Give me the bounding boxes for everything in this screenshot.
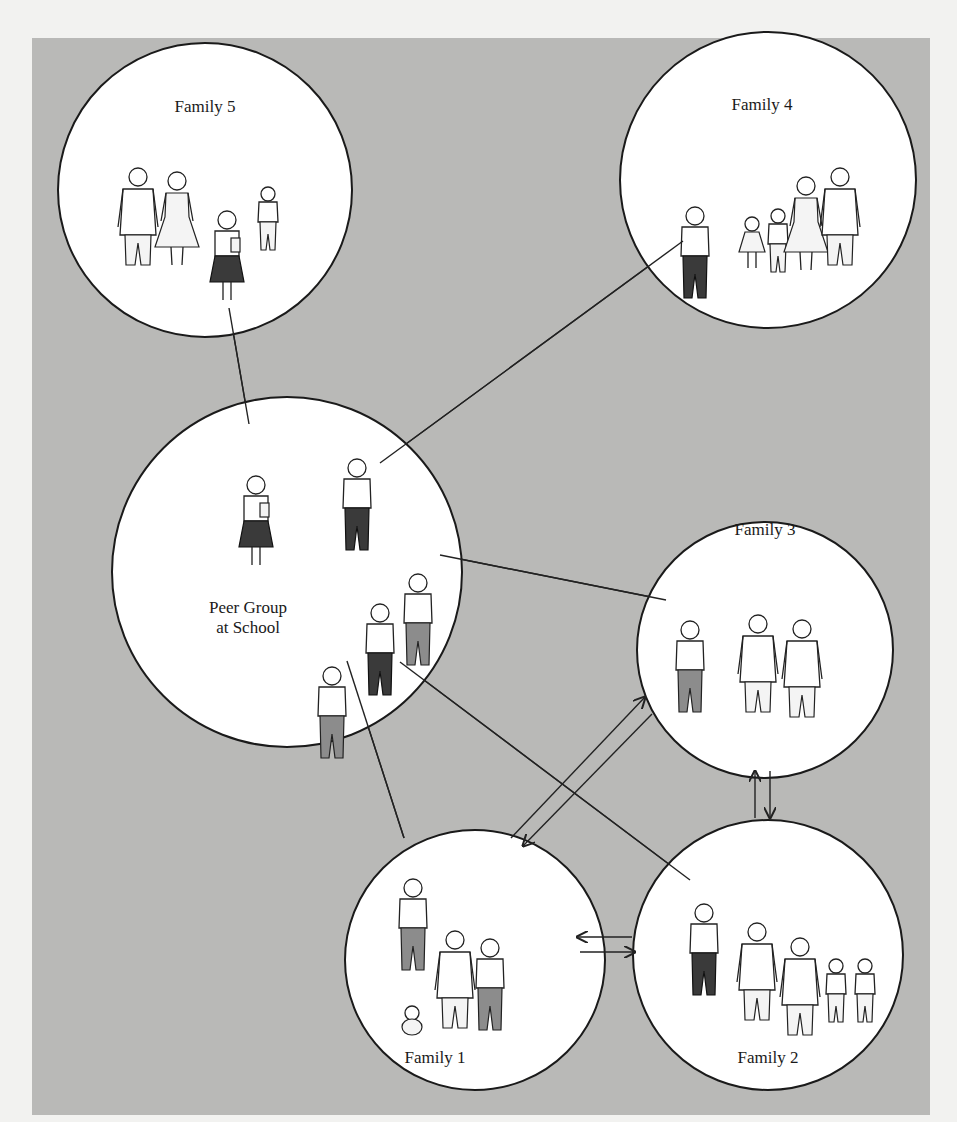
group-family3: Family 3 — [637, 520, 893, 778]
peer-circle — [112, 397, 462, 747]
peer-label-line2: at School — [216, 618, 280, 637]
family4-circle — [620, 32, 916, 328]
family5-circle — [58, 43, 352, 337]
group-family4: Family 4 — [620, 32, 916, 328]
group-family5: Family 5 — [58, 43, 352, 337]
peer-label-line1: Peer Group — [209, 598, 287, 617]
link-peer-family4-overlay — [380, 241, 683, 463]
family2-label: Family 2 — [738, 1048, 799, 1067]
link-peer-family3-overlay — [440, 555, 666, 600]
family-peer-network-diagram: Family 5 Family 4 Peer Group at School — [0, 0, 957, 1122]
group-family2: Family 2 — [633, 820, 903, 1090]
arrow-family1-to-family3 — [511, 697, 645, 838]
family4-label: Family 4 — [732, 95, 793, 114]
arrow-family3-to-family1 — [523, 714, 652, 846]
family1-label: Family 1 — [405, 1048, 466, 1067]
group-peer-school: Peer Group at School — [112, 397, 462, 758]
family3-label: Family 3 — [735, 520, 796, 539]
group-family1: Family 1 — [345, 830, 605, 1090]
family1-circle — [345, 830, 605, 1090]
family5-label: Family 5 — [175, 97, 236, 116]
